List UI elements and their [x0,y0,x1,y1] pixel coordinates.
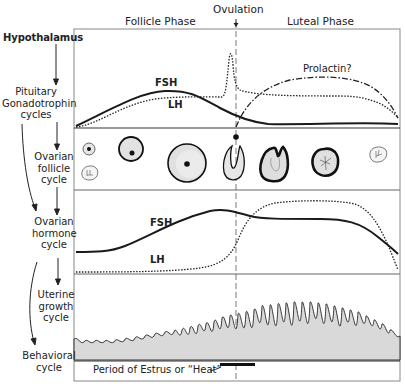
estrus-period-bar [220,363,255,366]
ovulation-arrow-icon [234,23,239,27]
row-label-ovarian-hormone: Ovarian hormone cycle [32,216,76,251]
hormone-lh-label: LH [150,254,165,265]
hormone-lh-curve [76,201,398,272]
estrus-label: Period of Estrus or “Heat” [93,364,222,375]
row-label-behavioral: Behavioral cycle [22,350,76,373]
hormone-curves [76,201,398,272]
endometrium-shape [74,302,400,360]
corpus-albicans-icon [82,166,98,180]
large-follicle-icon [168,144,206,182]
hormone-fsh-curve [76,210,398,254]
ruptured-follicle-icon [223,146,244,180]
regressed-corpus-icon [370,147,387,162]
follicle-phase-label: Follicle Phase [125,15,196,27]
released-ovum-icon [233,134,239,140]
arrow-curved-icon [32,204,37,211]
growing-follicle-icon [119,137,143,161]
small-follicle-icon [83,143,95,155]
arrow-down-icon [54,79,59,85]
row-label-ovarian-follicle: Ovarian follicle cycle [32,151,76,186]
luteal-phase-label: Luteal Phase [287,15,354,27]
row-label-pituitary: Pituitary Gonadotrophin cycles [2,86,70,121]
uterine-growth-profile [74,302,400,360]
gonadotrophin-lh-label: LH [168,99,183,110]
arrow-curved-icon [31,338,36,345]
arrow-down-icon [56,279,61,285]
reproductive-cycle-diagram [0,0,405,389]
prolactin-label: Prolactin? [303,63,352,74]
row-label-uterine: Uterine growth cycle [36,289,76,324]
arrow-down-icon [55,209,60,215]
follicle-stages [82,134,387,182]
row-label-hypothalamus: Hypothalamus [3,32,83,44]
arrow-down-icon [55,144,60,150]
corpus-luteum-forming-icon [260,147,287,181]
prolactin-curve [236,77,398,127]
hormone-fsh-label: FSH [150,217,172,228]
gonadotrophin-fsh-label: FSH [155,77,177,88]
corpus-luteum-icon [312,149,338,176]
ovulation-label: Ovulation [213,3,264,15]
